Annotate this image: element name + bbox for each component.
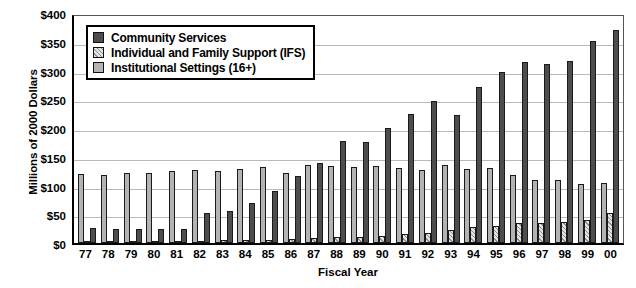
bar-cs <box>317 163 323 244</box>
bar-cs <box>295 176 301 243</box>
legend-item: Community Services <box>93 30 305 45</box>
legend-swatch-ifs <box>93 47 104 58</box>
bar-cs <box>590 41 596 243</box>
x-axis-tick-label: 85 <box>257 248 280 264</box>
x-axis-tick-label: 91 <box>394 248 417 264</box>
bar-cs <box>158 229 164 243</box>
bar-inst <box>237 169 243 243</box>
x-axis-tick-label: 79 <box>120 248 143 264</box>
legend-label: Institutional Settings (16+) <box>111 61 256 75</box>
chart-legend: Community ServicesIndividual and Family … <box>86 25 315 80</box>
y-axis-tick-label: $300 <box>18 68 66 78</box>
y-axis-tick-label: $350 <box>18 39 66 49</box>
bar-group <box>553 16 576 243</box>
x-axis-tick-label: 96 <box>508 248 531 264</box>
bar-cs <box>363 142 369 243</box>
bar-inst <box>101 175 107 243</box>
x-axis-tick-label: 82 <box>188 248 211 264</box>
x-axis-tick-label: 97 <box>531 248 554 264</box>
bar-group <box>417 16 440 243</box>
legend-swatch-cs <box>93 32 104 43</box>
x-axis-tick-label: 77 <box>74 248 97 264</box>
x-axis-tick-label: 90 <box>371 248 394 264</box>
bar-inst <box>169 171 175 243</box>
bar-inst <box>192 170 198 243</box>
bar-inst <box>396 168 402 243</box>
x-axis-tick-label: 78 <box>97 248 120 264</box>
bar-group <box>348 16 371 243</box>
y-axis-tick-label: $50 <box>18 211 66 221</box>
bar-cs <box>136 229 142 243</box>
bar-group <box>575 16 598 243</box>
bar-cs <box>567 61 573 243</box>
bar-chart: Millions of 2000 Dollars $400$350$300$25… <box>0 0 636 288</box>
x-axis-tick-labels: 7778798081828384858687888990919293949596… <box>72 248 624 264</box>
x-axis-tick-label: 94 <box>462 248 485 264</box>
bar-group <box>530 16 553 243</box>
x-axis-tick-label: 87 <box>302 248 325 264</box>
legend-item: Individual and Family Support (IFS) <box>93 45 305 60</box>
bar-group <box>598 16 621 243</box>
x-axis-tick-label: 95 <box>485 248 508 264</box>
bar-group <box>394 16 417 243</box>
y-axis-tick-label: $150 <box>18 154 66 164</box>
bar-cs <box>385 128 391 243</box>
x-axis-tick-label: 98 <box>553 248 576 264</box>
x-axis-tick-label: 92 <box>416 248 439 264</box>
bar-inst <box>260 167 266 243</box>
bar-group <box>462 16 485 243</box>
bar-inst <box>283 173 289 243</box>
bar-cs <box>544 64 550 243</box>
bar-inst <box>373 166 379 243</box>
y-axis-tick-label: $400 <box>18 10 66 20</box>
bar-cs <box>454 115 460 243</box>
bar-cs <box>340 141 346 243</box>
legend-item: Institutional Settings (16+) <box>93 60 305 75</box>
bar-cs <box>499 72 505 243</box>
x-axis-title: Fiscal Year <box>72 266 624 278</box>
bar-cs <box>476 87 482 243</box>
bar-cs <box>613 30 619 243</box>
bar-cs <box>522 62 528 243</box>
y-axis-tick-label: $250 <box>18 96 66 106</box>
x-axis-tick-label: 81 <box>165 248 188 264</box>
y-axis-tick-label: $0 <box>18 240 66 250</box>
bar-inst <box>351 167 357 243</box>
bar-cs <box>181 229 187 243</box>
bar-inst <box>78 174 84 243</box>
bar-group <box>485 16 508 243</box>
bar-group <box>326 16 349 243</box>
x-axis-tick-label: 86 <box>279 248 302 264</box>
y-axis-tick-label: $200 <box>18 125 66 135</box>
x-axis-tick-label: 84 <box>234 248 257 264</box>
bar-cs <box>90 228 96 243</box>
legend-swatch-inst <box>93 62 104 73</box>
bar-inst <box>305 165 311 243</box>
bar-inst <box>215 171 221 243</box>
legend-label: Community Services <box>111 31 226 45</box>
y-axis-tick-labels: $400$350$300$250$200$150$100$50$0 <box>18 0 66 288</box>
x-axis-tick-label: 93 <box>439 248 462 264</box>
x-axis-tick-label: 83 <box>211 248 234 264</box>
bar-inst <box>328 166 334 243</box>
bar-cs <box>227 211 233 243</box>
y-axis-tick-label: $100 <box>18 183 66 193</box>
x-axis-tick-label: 88 <box>325 248 348 264</box>
bar-inst <box>124 173 130 243</box>
legend-label: Individual and Family Support (IFS) <box>111 46 305 60</box>
x-axis-tick-label: 00 <box>599 248 622 264</box>
bar-inst <box>146 173 152 243</box>
bar-cs <box>408 114 414 243</box>
bar-cs <box>249 203 255 243</box>
bar-cs <box>204 213 210 243</box>
x-axis-tick-label: 99 <box>576 248 599 264</box>
bar-cs <box>431 101 437 243</box>
bar-group <box>507 16 530 243</box>
x-axis-tick-label: 80 <box>142 248 165 264</box>
bar-cs <box>113 229 119 243</box>
bar-group <box>439 16 462 243</box>
bar-group <box>371 16 394 243</box>
bar-cs <box>272 191 278 243</box>
x-axis-tick-label: 89 <box>348 248 371 264</box>
